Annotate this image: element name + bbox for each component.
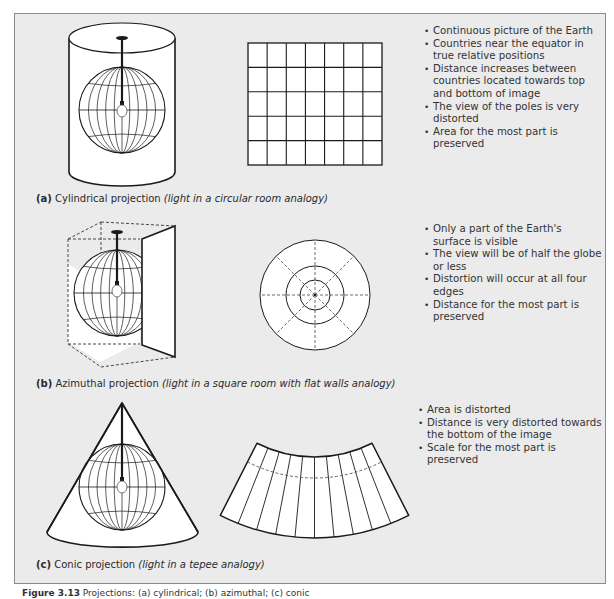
square-room-illustration	[68, 222, 175, 367]
bullet-item: Distance increases between countries loc…	[424, 63, 602, 101]
bullet-item: Distance for the most part is preserved	[424, 299, 602, 324]
bullet-item: Area for the most part is preserved	[424, 126, 602, 151]
cylindrical-map-grid	[248, 43, 382, 165]
caption-name: Conic projection	[54, 559, 135, 570]
caption-conic: (c) Conic projection (light in a tepee a…	[36, 559, 265, 570]
caption-analogy: (light in a tepee analogy)	[138, 559, 264, 570]
azimuthal-map-disc	[260, 240, 370, 350]
caption-name: Cylindrical projection	[55, 193, 161, 204]
flat-wall-projection-plane	[142, 226, 175, 357]
bullet-item: The view of the poles is very distorted	[424, 101, 602, 126]
caption-analogy: (light in a circular room analogy)	[164, 193, 328, 204]
bullet-item: Area is distorted	[418, 404, 606, 417]
figure-label: Figure 3.13	[22, 588, 80, 598]
bullet-item: Distortion will occur at all four edges	[424, 273, 602, 298]
caption-tag: (b)	[36, 378, 52, 389]
caption-analogy: (light in a square room with flat walls …	[162, 378, 396, 389]
azimuthal-bullets: Only a part of the Earth's surface is vi…	[424, 223, 602, 324]
bullet-item: The view will be of half the globe or le…	[424, 248, 602, 273]
figure-caption: Figure 3.13 Projections: (a) cylindrical…	[22, 588, 309, 598]
bullet-item: Only a part of the Earth's surface is vi…	[424, 223, 602, 248]
conic-bullets: Area is distorted Distance is very disto…	[418, 404, 606, 467]
caption-cylindrical: (a) Cylindrical projection (light in a c…	[36, 193, 328, 204]
cylindrical-bullets: Continuous picture of the Earth Countrie…	[424, 25, 602, 151]
cylinder-room-illustration	[69, 23, 175, 186]
bullet-item: Distance is very distorted towards the b…	[418, 417, 606, 442]
disc-pole-point	[314, 294, 317, 297]
bullet-item: Scale for the most part is preserved	[418, 442, 606, 467]
caption-name: Azimuthal projection	[56, 378, 159, 389]
conic-map-fan	[220, 443, 408, 538]
tepee-cone-illustration	[47, 403, 198, 547]
caption-tag: (c)	[36, 559, 51, 570]
caption-azimuthal: (b) Azimuthal projection (light in a squ…	[36, 378, 396, 389]
caption-tag: (a)	[36, 193, 52, 204]
bullet-item: Countries near the equator in true relat…	[424, 38, 602, 63]
figure-caption-text: Projections: (a) cylindrical; (b) azimut…	[83, 588, 310, 598]
grid-frame	[248, 43, 382, 165]
bullet-item: Continuous picture of the Earth	[424, 25, 602, 38]
